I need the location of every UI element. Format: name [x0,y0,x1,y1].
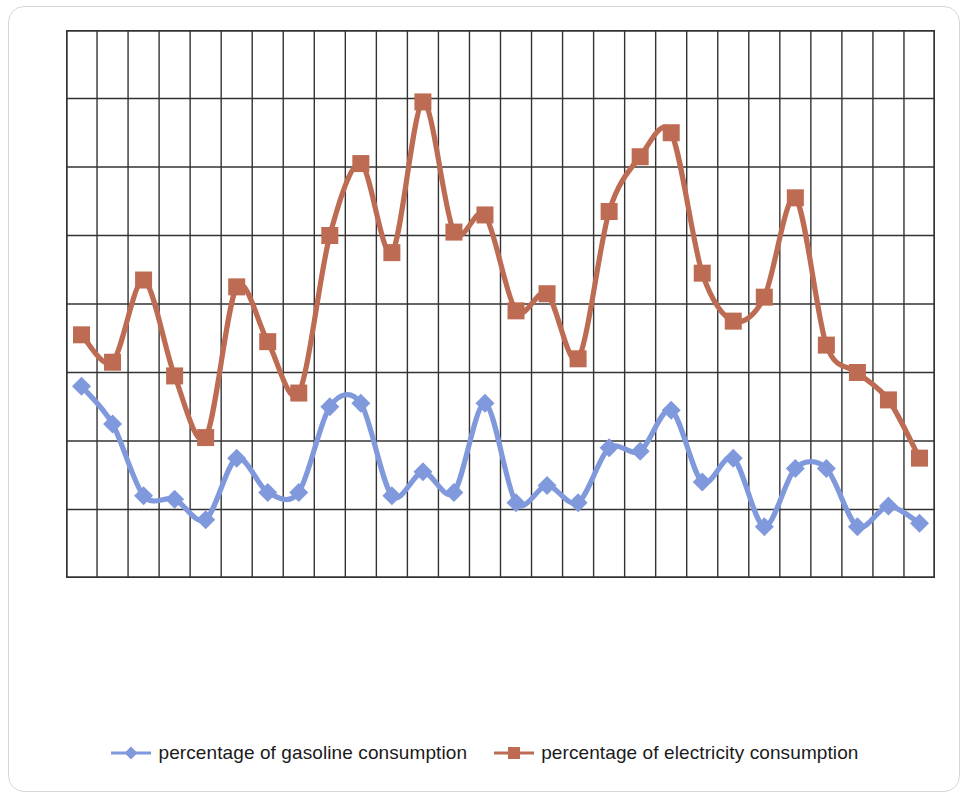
data-point-marker [632,148,649,165]
data-point-marker [414,93,431,110]
data-point-marker [445,224,462,241]
legend-item-electricity[interactable]: percentage of electricity consumption [493,742,858,764]
data-point-marker [290,385,307,402]
data-point-marker [259,333,276,350]
data-point-marker [135,272,152,289]
data-point-marker [507,493,526,512]
chart-series-layer [66,30,935,578]
data-point-marker [104,354,121,371]
data-point-marker [166,367,183,384]
chart-legend: percentage of gasoline consumption perce… [0,742,969,764]
legend-label-gasoline: percentage of gasoline consumption [158,742,467,764]
series-line [82,386,920,527]
data-point-marker [382,486,401,505]
data-point-marker [444,483,463,502]
data-point-marker [539,285,556,302]
data-point-marker [321,227,338,244]
data-point-marker [508,302,525,319]
data-point-marker [787,189,804,206]
series-line [82,102,920,458]
data-point-marker [663,124,680,141]
data-point-marker [911,450,928,467]
data-point-marker [849,364,866,381]
series-electricity [73,93,928,466]
data-point-marker [228,278,245,295]
data-point-marker [383,244,400,261]
data-point-marker [694,265,711,282]
data-point-marker [601,203,618,220]
legend-item-gasoline[interactable]: percentage of gasoline consumption [110,742,467,764]
data-point-marker [880,391,897,408]
line-with-square-marker-icon [493,744,535,762]
data-point-marker [476,206,493,223]
data-point-marker [73,326,90,343]
legend-label-electricity: percentage of electricity consumption [541,742,858,764]
line-with-diamond-marker-icon [110,744,152,762]
series-gasoline [72,377,929,536]
data-point-marker [725,313,742,330]
plot-area [66,30,935,578]
data-point-marker [818,337,835,354]
data-point-marker [756,289,773,306]
data-point-marker [352,155,369,172]
chart-page: percentage of gasoline consumption perce… [0,0,969,798]
data-point-marker [570,350,587,367]
data-point-marker [197,429,214,446]
